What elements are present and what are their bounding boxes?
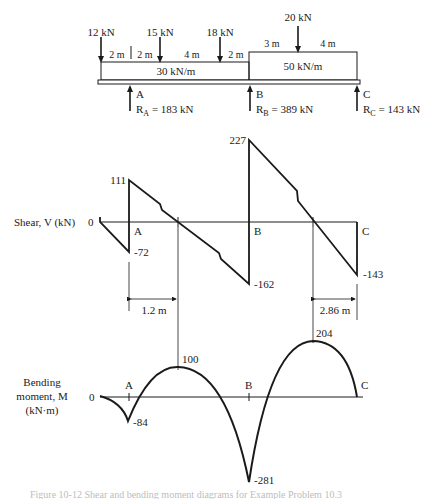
moment-axis-label-line3: (kN·m) [26, 404, 59, 417]
shear-zero-label: 0 [88, 216, 94, 228]
support-label-a: A [136, 88, 144, 100]
moment-value-100: 100 [182, 353, 199, 365]
moment-zero-label: 0 [89, 391, 95, 403]
loading-diagram: 30 kN/m 50 kN/m 12 kN 15 kN 18 kN 20 kN … [87, 11, 420, 118]
beam [98, 80, 360, 84]
support-label-c: C [363, 88, 370, 100]
moment-point-b: B [245, 379, 252, 391]
dimension-label-1-2m: 1.2 m [141, 304, 167, 316]
spacing-label: 4 m [184, 49, 200, 60]
spacing-label: 2 m [109, 49, 125, 60]
point-load-label: 15 kN [146, 26, 173, 38]
reaction-label-b: RB = 389 kN [256, 103, 313, 118]
shear-value-111: 111 [110, 174, 126, 186]
point-load-label: 12 kN [87, 26, 114, 38]
shear-value-227: 227 [230, 134, 247, 146]
reaction-label-c: RC = 143 kN [363, 103, 420, 118]
spacing-label: 4 m [320, 38, 336, 49]
figure-caption: Figure 10-12 Shear and bending moment di… [30, 489, 342, 499]
point-load-label: 20 kN [284, 11, 311, 23]
moment-diagram: Bending moment, M (kN·m) 0 -84 100 -281 … [16, 327, 368, 486]
spacing-label: 3 m [264, 38, 280, 49]
moment-axis-label-line2: moment, M [16, 390, 68, 402]
moment-value-neg84: -84 [133, 416, 148, 428]
shear-point-b: B [254, 225, 261, 237]
moment-value-neg281: -281 [254, 474, 274, 486]
shear-diagram: Shear, V (kN) 0 111 -72 227 -162 -143 A … [14, 134, 384, 290]
spacing-label: 2 m [228, 49, 244, 60]
spacing-label: 2 m [137, 49, 153, 60]
point-load-label: 18 kN [206, 26, 233, 38]
dimension-lines: 1.2 m 2.86 m [129, 227, 357, 370]
dimension-label-2-86m: 2.86 m [320, 304, 351, 316]
moment-axis-label-line1: Bending [23, 376, 61, 388]
distributed-load-50-label: 50 kN/m [284, 60, 323, 72]
moment-point-a: A [125, 379, 133, 391]
beam-diagram-figure: 30 kN/m 50 kN/m 12 kN 15 kN 18 kN 20 kN … [0, 0, 429, 499]
shear-value-neg72: -72 [134, 246, 149, 258]
support-label-b: B [256, 88, 263, 100]
shear-axis-label: Shear, V (kN) [14, 216, 76, 229]
shear-value-neg162: -162 [254, 278, 274, 290]
moment-value-204: 204 [316, 327, 333, 339]
reaction-label-a: RA = 183 kN [136, 103, 194, 118]
moment-point-c: C [361, 379, 368, 391]
distributed-load-30-label: 30 kN/m [157, 65, 196, 77]
shear-curve [100, 140, 357, 284]
shear-point-c: C [362, 225, 369, 237]
moment-curve [100, 341, 357, 482]
shear-value-neg143: -143 [363, 268, 384, 280]
shear-point-a: A [134, 225, 142, 237]
